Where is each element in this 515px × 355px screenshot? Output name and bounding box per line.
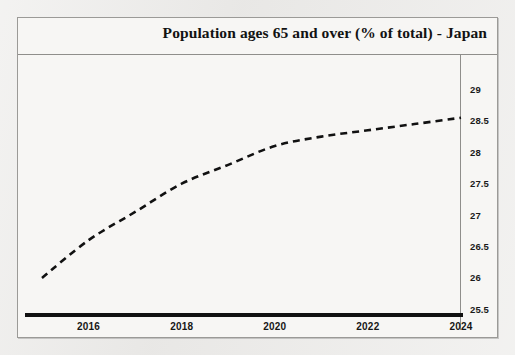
y-tick-label: 27 [470,210,481,221]
y-tick-label: 26 [470,272,481,283]
y-tick-label: 27.5 [470,178,489,189]
x-axis-line [25,313,463,317]
x-tick-label: 2022 [356,321,379,332]
series-line-path [42,118,461,278]
x-tick-label: 2020 [263,321,286,332]
y-tick-label: 29 [470,84,481,95]
y-tick-label: 26.5 [470,241,489,252]
chart-title: Population ages 65 and over (% of total)… [163,24,487,42]
y-tick-label: 28.5 [470,115,489,126]
y-tick-label: 25.5 [470,304,489,315]
x-tick-label: 2016 [77,321,100,332]
x-tick-label: 2018 [170,321,193,332]
line-series-population-65-and-over [18,55,498,338]
plot-area [18,55,498,338]
y-tick-label: 28 [470,147,481,158]
x-tick-label: 2024 [449,321,472,332]
chart-panel: Population ages 65 and over (% of total)… [17,17,498,338]
